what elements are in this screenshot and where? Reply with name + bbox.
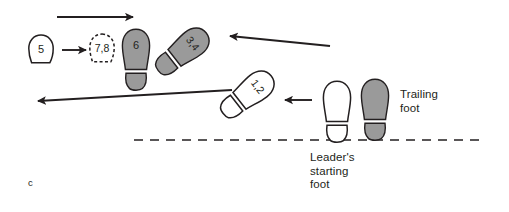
panel-label: c: [28, 176, 33, 190]
footprint-label-step-6: 6: [133, 39, 139, 51]
leaders-starting-foot-label: Leader's starting foot: [310, 151, 355, 192]
footprint-step-3-4: 3,4: [150, 22, 215, 81]
footprint-step-6: 6: [122, 29, 149, 90]
footprint-step-1-2: 1,2: [215, 65, 280, 124]
footprint-leader-starting-foot: [323, 81, 350, 142]
footprint-trailing-foot: [361, 79, 388, 140]
footprint-label-step-7-8: 7,8: [95, 42, 110, 54]
trailing-foot-label: Trailing foot: [400, 88, 438, 115]
footprint-step-7-8: 7,8: [90, 34, 114, 62]
arrow-upper-right-leftward: [230, 36, 330, 46]
footprint-label-step-5: 5: [38, 43, 44, 55]
footprint-step-5: 5: [29, 35, 53, 63]
arrow-long-bottom-leftward: [38, 90, 232, 101]
figure-canvas: 5 7,8 6 3,4 1,2 Trailin: [0, 0, 509, 212]
